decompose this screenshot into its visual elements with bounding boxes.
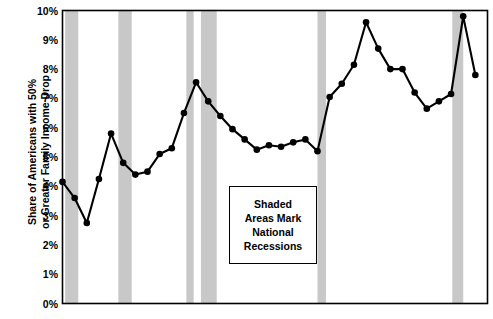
data-point-marker <box>205 98 212 105</box>
data-point-marker <box>120 160 127 167</box>
data-point-marker <box>387 66 394 73</box>
data-point-marker <box>132 171 139 178</box>
note-line-3: National <box>252 225 293 239</box>
data-point-marker <box>326 94 333 101</box>
note-line-1: Shaded <box>254 197 292 211</box>
plot-area <box>0 0 493 319</box>
recession-note-box: Shaded Areas Mark National Recessions <box>229 186 317 264</box>
data-point-marker <box>71 195 78 202</box>
data-point-marker <box>363 19 370 26</box>
data-point-marker <box>144 168 151 175</box>
recession-band <box>186 11 193 304</box>
data-point-marker <box>302 136 309 143</box>
data-point-marker <box>266 142 273 149</box>
data-point-marker <box>193 79 200 86</box>
recession-band <box>318 11 327 304</box>
recession-band <box>65 11 78 304</box>
data-point-marker <box>156 151 163 158</box>
data-point-marker <box>460 13 467 20</box>
data-point-marker <box>375 45 382 52</box>
recession-band <box>201 11 217 304</box>
chart-figure: Share of Americans with 50% or Greater F… <box>0 0 493 319</box>
data-point-marker <box>96 176 103 183</box>
data-point-marker <box>59 179 66 186</box>
data-point-marker <box>108 130 115 137</box>
data-point-marker <box>217 113 224 120</box>
data-point-marker <box>436 98 443 105</box>
data-point-marker <box>253 146 260 153</box>
data-point-marker <box>338 80 345 87</box>
data-point-marker <box>399 66 406 73</box>
data-point-marker <box>448 91 455 98</box>
data-point-marker <box>351 61 358 68</box>
data-point-marker <box>278 143 285 150</box>
note-line-4: Recessions <box>244 239 302 253</box>
data-point-marker <box>423 105 430 112</box>
data-point-marker <box>181 110 188 117</box>
data-point-marker <box>241 136 248 143</box>
data-point-marker <box>83 220 90 227</box>
data-point-marker <box>229 126 236 133</box>
note-line-2: Areas Mark <box>245 211 302 225</box>
data-point-marker <box>290 139 297 146</box>
data-point-marker <box>472 72 479 79</box>
data-point-marker <box>168 145 175 152</box>
data-point-marker <box>314 148 321 155</box>
data-point-marker <box>411 89 418 96</box>
